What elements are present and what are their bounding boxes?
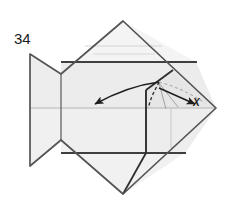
step-number-label: 34 [14,30,31,47]
panel-tail-lower [30,108,61,166]
origami-diagram-canvas: 34 X [0,0,229,208]
point-label-x: X [192,97,201,108]
panel-head-lower [146,108,216,153]
panel-tail-upper [30,54,61,108]
origami-diagram-figure: 34 X [0,0,229,208]
